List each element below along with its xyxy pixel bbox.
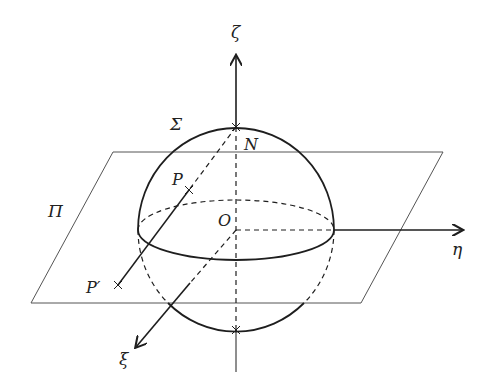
p-label: P — [171, 170, 183, 189]
sphere-lower-hidden — [138, 230, 168, 303]
equator-back — [138, 200, 334, 230]
eta-label: η — [452, 239, 463, 259]
sigma-label: Σ — [169, 114, 183, 134]
xi-label: ξ — [119, 349, 130, 369]
stereographic-projection-diagram: ζ η ξ Σ Π N O P P′ — [0, 0, 491, 387]
point-p-prime-marker — [114, 281, 122, 289]
zeta-label: ζ — [231, 22, 242, 42]
pi-label: Π — [47, 201, 64, 221]
sphere-upper-outline — [138, 128, 334, 230]
origin-label: O — [218, 211, 231, 230]
p-prime-label: P′ — [85, 278, 101, 297]
projection-line — [118, 190, 189, 285]
north-label: N — [243, 135, 259, 154]
xi-axis-hidden — [190, 230, 236, 283]
sphere-lower-hidden-right — [304, 230, 334, 303]
point-p-marker — [185, 186, 193, 194]
